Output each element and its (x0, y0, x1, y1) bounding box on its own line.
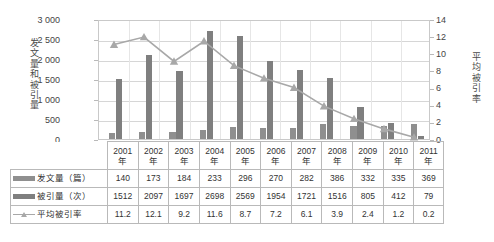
table-corner-cell (11, 142, 108, 170)
right-tickmark-6 (430, 89, 434, 90)
right-tickmark-14 (430, 20, 434, 21)
table-row: 被引量（次）1512209716972698256919541721151680… (11, 188, 444, 206)
table-cell-r1-2005年: 2569 (230, 188, 261, 206)
left-ytick-3000: 3 000 (14, 16, 60, 25)
right-ytick-6: 6 (436, 84, 458, 93)
right-tickmark-2 (430, 123, 434, 124)
line-pingjunbeiyinlv-path (114, 37, 414, 137)
table-year-header-2010年: 2010年 (383, 142, 414, 170)
right-tickmark-10 (430, 54, 434, 55)
table-cell-r2-2007年: 6.1 (291, 206, 322, 224)
legend-swatch-icon-1 (13, 194, 35, 199)
right-ytick-4: 4 (436, 101, 458, 110)
table-cell-r1-2011年: 79 (414, 188, 444, 206)
table-cell-r0-2003年: 184 (169, 170, 200, 188)
left-ytick-1500: 1 500 (14, 76, 60, 85)
legend-row-2: 平均被引率 (11, 206, 108, 224)
bottom-caption-strip (0, 236, 494, 242)
table-year-header-2001年: 2001年 (108, 142, 139, 170)
year-number: 2011 (414, 146, 443, 156)
table-cell-r0-2011年: 369 (414, 170, 444, 188)
table-cell-r2-2003年: 9.2 (169, 206, 200, 224)
table-cell-r1-2002年: 2097 (138, 188, 169, 206)
year-suffix: 年 (322, 156, 352, 166)
legend-line-marker-icon (13, 211, 35, 218)
table-cell-r2-2010年: 1.2 (383, 206, 414, 224)
table-cell-r0-2001年: 140 (108, 170, 139, 188)
table-cell-r1-2001年: 1512 (108, 188, 139, 206)
year-suffix: 年 (384, 156, 414, 166)
year-suffix: 年 (200, 156, 230, 166)
year-number: 2010 (384, 146, 414, 156)
table-cell-r0-2004年: 233 (199, 170, 230, 188)
year-number: 2001 (108, 146, 138, 156)
right-ytick-12: 12 (436, 33, 458, 42)
year-suffix: 年 (292, 156, 322, 166)
left-ytick-2500: 2 500 (14, 36, 60, 45)
table-year-header-2009年: 2009年 (353, 142, 384, 170)
year-suffix: 年 (261, 156, 291, 166)
legend-swatch-icon-0 (13, 176, 35, 181)
plot-area (98, 20, 430, 140)
table-cell-r1-2008年: 1516 (322, 188, 353, 206)
table-cell-r0-2010年: 335 (383, 170, 414, 188)
table-header-row: 2001年2002年2003年2004年2005年2006年2007年2008年… (11, 142, 444, 170)
table-cell-r1-2009年: 805 (353, 188, 384, 206)
table-cell-r2-2008年: 3.9 (322, 206, 353, 224)
year-number: 2007 (292, 146, 322, 156)
year-number: 2008 (322, 146, 352, 156)
legend-label-text: 发文量（篇） (37, 173, 91, 183)
line-series (99, 21, 429, 139)
table-cell-r1-2004年: 2698 (199, 188, 230, 206)
year-number: 2002 (139, 146, 169, 156)
year-number: 2006 (261, 146, 291, 156)
year-suffix: 年 (353, 156, 383, 166)
right-tickmark-12 (430, 37, 434, 38)
table-cell-r2-2004年: 11.6 (199, 206, 230, 224)
table-cell-r0-2008年: 386 (322, 170, 353, 188)
table-cell-r0-2009年: 332 (353, 170, 384, 188)
table-cell-r2-2001年: 11.2 (108, 206, 139, 224)
right-ytick-2: 2 (436, 118, 458, 127)
line-marker-2002年 (140, 33, 148, 40)
table-cell-r2-2006年: 7.2 (261, 206, 292, 224)
table-cell-r0-2006年: 270 (261, 170, 292, 188)
table-year-header-2005年: 2005年 (230, 142, 261, 170)
table-year-header-2008年: 2008年 (322, 142, 353, 170)
table-year-header-2004年: 2004年 (199, 142, 230, 170)
table-cell-r1-2007年: 1721 (291, 188, 322, 206)
year-number: 2003 (169, 146, 199, 156)
year-suffix: 年 (139, 156, 169, 166)
year-suffix: 年 (169, 156, 199, 166)
line-marker-2008年 (320, 102, 328, 109)
table-cell-r2-2002年: 12.1 (138, 206, 169, 224)
legend-row-0: 发文量（篇） (11, 170, 108, 188)
table-year-header-2002年: 2002年 (138, 142, 169, 170)
table-cell-r0-2007年: 282 (291, 170, 322, 188)
year-number: 2009 (353, 146, 383, 156)
legend-label-text: 被引量（次） (37, 191, 91, 201)
left-ytick-500: 500 (14, 116, 60, 125)
right-ytick-10: 10 (436, 50, 458, 59)
table-year-header-2007年: 2007年 (291, 142, 322, 170)
table-row: 发文量（篇）140173184233296270282386332335369 (11, 170, 444, 188)
right-ytick-8: 8 (436, 67, 458, 76)
chart-figure: 发文量和被引量 平均被引率 05001 0001 5002 0002 5003 … (0, 0, 494, 242)
line-marker-2004年 (200, 37, 208, 44)
year-number: 2004 (200, 146, 230, 156)
right-tickmark-8 (430, 71, 434, 72)
right-ytick-14: 14 (436, 16, 458, 25)
table-cell-r0-2005年: 296 (230, 170, 261, 188)
table-cell-r2-2005年: 8.7 (230, 206, 261, 224)
data-table: 2001年2002年2003年2004年2005年2006年2007年2008年… (10, 141, 444, 224)
table-row: 平均被引率11.212.19.211.68.77.26.13.92.41.20.… (11, 206, 444, 224)
table-cell-r2-2009年: 2.4 (353, 206, 384, 224)
year-suffix: 年 (231, 156, 261, 166)
right-tickmark-4 (430, 106, 434, 107)
table-cell-r1-2010年: 412 (383, 188, 414, 206)
table-year-header-2011年: 2011年 (414, 142, 444, 170)
table-cell-r1-2006年: 1954 (261, 188, 292, 206)
year-suffix: 年 (414, 156, 443, 166)
year-suffix: 年 (108, 156, 138, 166)
table-cell-r0-2002年: 173 (138, 170, 169, 188)
